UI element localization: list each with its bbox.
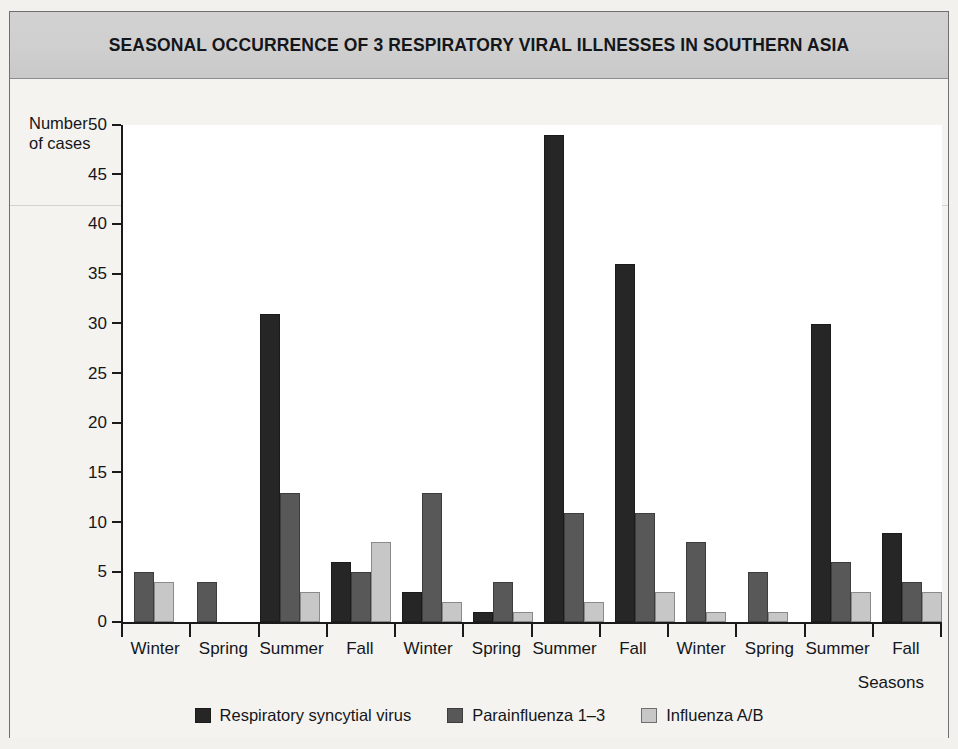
bar [748, 572, 768, 622]
bar-group [249, 125, 320, 622]
y-tick-label: 10 [88, 513, 121, 533]
x-tick-mark [394, 624, 396, 637]
y-tick-mark [112, 471, 121, 473]
y-tick-label: 35 [88, 264, 121, 284]
legend-swatch [195, 708, 211, 723]
x-tick-label: Fall [599, 639, 667, 667]
bar-group [123, 125, 186, 622]
y-tick-label: 20 [88, 413, 121, 433]
plot-canvas [121, 125, 942, 624]
x-tick-label: Summer [258, 639, 326, 667]
y-tick-value: 45 [88, 165, 107, 185]
y-tick-mark [112, 621, 121, 623]
x-axis-labels: WinterSpringSummerFallWinterSpringSummer… [121, 639, 940, 667]
bar-group [533, 125, 604, 622]
y-tick-label: 50 [88, 115, 121, 135]
y-tick-value: 40 [88, 214, 107, 234]
bar [706, 612, 726, 622]
bar [686, 542, 706, 622]
y-tick-mark [112, 521, 121, 523]
bar [922, 592, 942, 622]
x-tick-mark [667, 624, 669, 637]
y-tick-value: 35 [88, 264, 107, 284]
bar [615, 264, 635, 622]
x-tick-label: Winter [121, 639, 189, 667]
x-tick-label: Winter [394, 639, 462, 667]
bar [422, 493, 442, 622]
bar [300, 592, 320, 622]
legend-label: Parainfluenza 1–3 [472, 706, 605, 725]
x-tick-label: Spring [462, 639, 530, 667]
y-tick-value: 15 [88, 463, 107, 483]
bar [635, 513, 655, 622]
x-tick-mark [804, 624, 806, 637]
bar [513, 612, 533, 622]
y-tick-mark [112, 422, 121, 424]
legend-swatch [641, 708, 657, 723]
bar-group [675, 125, 738, 622]
bar-group [871, 125, 942, 622]
bar [831, 562, 851, 622]
x-tick-label: Spring [189, 639, 257, 667]
x-tick-mark [462, 624, 464, 637]
bar-group [391, 125, 462, 622]
x-tick-mark [599, 624, 601, 637]
bar [564, 513, 584, 622]
y-tick-label: 0 [98, 612, 121, 632]
figure-root: SEASONAL OCCURRENCE OF 3 RESPIRATORY VIR… [0, 0, 958, 749]
y-tick-label: 40 [88, 214, 121, 234]
chart-legend: Respiratory syncytial virusParainfluenza… [10, 706, 948, 725]
x-tick-label: Winter [667, 639, 735, 667]
y-tick-value: 30 [88, 314, 107, 334]
x-tick-label: Summer [531, 639, 599, 667]
y-tick-mark [112, 173, 121, 175]
y-tick-label: 5 [98, 562, 121, 582]
y-tick-label: 45 [88, 165, 121, 185]
bar [134, 572, 154, 622]
plot-area: Number of cases 50454035302520151050 Win… [10, 79, 948, 738]
bar [493, 582, 513, 622]
x-tick-mark [872, 624, 874, 637]
bar [154, 582, 174, 622]
y-tick-mark [112, 322, 121, 324]
bar [197, 582, 217, 622]
legend-swatch [447, 708, 463, 723]
page-title: SEASONAL OCCURRENCE OF 3 RESPIRATORY VIR… [109, 35, 850, 56]
bar [442, 602, 462, 622]
y-tick-label: 30 [88, 314, 121, 334]
bar-group [462, 125, 533, 622]
bar [851, 592, 871, 622]
bar-group [604, 125, 675, 622]
y-tick-mark [112, 273, 121, 275]
bar [402, 592, 422, 622]
bar [473, 612, 493, 622]
bar [260, 314, 280, 622]
x-tick-mark [531, 624, 533, 637]
bar-series-container [123, 125, 942, 622]
bar [544, 135, 564, 622]
y-tick-value: 10 [88, 513, 107, 533]
bar [768, 612, 788, 622]
x-tick-mark [940, 624, 942, 637]
x-tick-mark [189, 624, 191, 637]
y-tick-value: 5 [98, 562, 107, 582]
y-tick-mark [112, 372, 121, 374]
bar [811, 324, 831, 622]
bar [902, 582, 922, 622]
y-tick-value: 0 [98, 612, 107, 632]
x-axis-ticks [121, 624, 940, 638]
legend-label: Influenza A/B [666, 706, 763, 725]
bar-group [186, 125, 249, 622]
bar-group [737, 125, 800, 622]
y-tick-value: 20 [88, 413, 107, 433]
y-axis-title-line2: of cases [29, 133, 111, 153]
y-tick-label: 15 [88, 463, 121, 483]
bar-group [800, 125, 871, 622]
y-tick-mark [112, 571, 121, 573]
chart-title-banner: SEASONAL OCCURRENCE OF 3 RESPIRATORY VIR… [10, 12, 948, 79]
y-tick-value: 50 [88, 115, 107, 135]
x-tick-label: Fall [872, 639, 940, 667]
y-tick-label: 25 [88, 364, 121, 384]
legend-label: Respiratory syncytial virus [220, 706, 412, 725]
legend-item: Respiratory syncytial virus [195, 706, 412, 725]
